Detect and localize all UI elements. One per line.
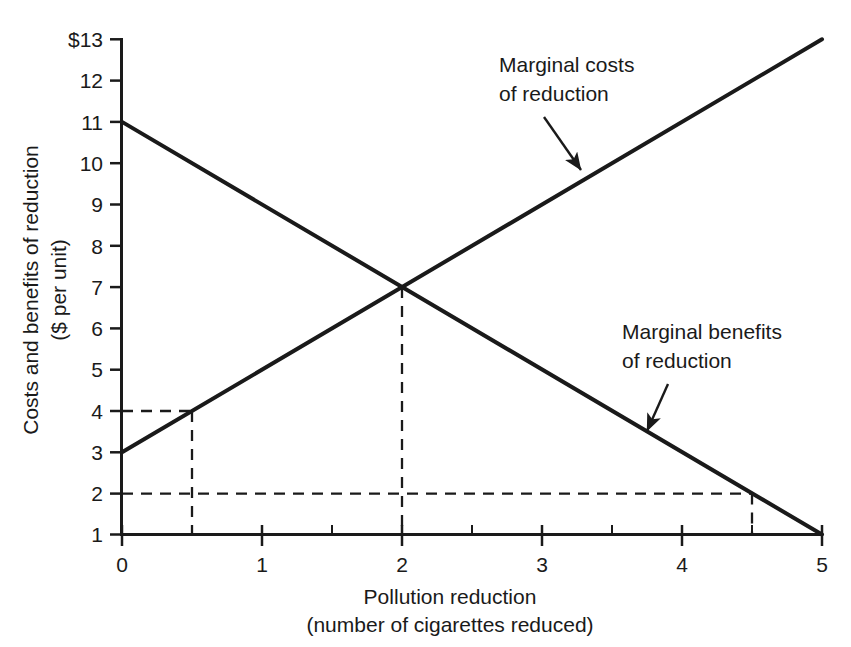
marginal-costs-line	[122, 39, 822, 452]
y-tick-label-9: 9	[91, 193, 103, 216]
x-tick-label-3: 3	[536, 553, 548, 576]
y-tick-label-10: 10	[80, 152, 103, 175]
y-axis-tick-labels: $13 12 11 10 9 8 7 6 5 4 3 2 1	[68, 28, 103, 546]
y-tick-label-6: 6	[91, 317, 103, 340]
y-tick-label-1: 1	[91, 523, 103, 546]
chart-figure: $13 12 11 10 9 8 7 6 5 4 3 2 1	[0, 0, 851, 647]
marginal-costs-arrow	[544, 117, 581, 170]
x-axis-title-group: Pollution reduction (number of cigarette…	[306, 585, 593, 636]
y-axis-title: Costs and benefits of reduction	[19, 145, 42, 435]
marginal-costs-label-line1: Marginal costs	[499, 53, 634, 76]
marginal-benefits-label-line2: of reduction	[622, 349, 732, 372]
y-tick-label-8: 8	[91, 235, 103, 258]
y-axis-title-group: Costs and benefits of reduction ($ per u…	[19, 145, 70, 435]
marginal-benefits-arrow	[647, 384, 668, 431]
y-tick-label-7: 7	[91, 276, 103, 299]
marginal-benefits-label-line1: Marginal benefits	[622, 320, 782, 343]
marginal-benefits-annotation-label: Marginal benefits of reduction	[622, 320, 782, 372]
x-tick-label-2: 2	[396, 553, 408, 576]
economics-line-chart: $13 12 11 10 9 8 7 6 5 4 3 2 1	[0, 0, 851, 647]
y-tick-label-5: 5	[91, 358, 103, 381]
x-tick-label-0: 0	[116, 553, 128, 576]
y-tick-label-11: 11	[81, 111, 103, 134]
y-tick-label-2: 2	[91, 482, 103, 505]
series-marginal-costs	[122, 39, 822, 452]
y-axis-subtitle: ($ per unit)	[47, 239, 70, 341]
x-tick-label-5: 5	[816, 553, 828, 576]
y-tick-label-13: $13	[68, 28, 103, 51]
x-axis-tick-labels: 0 1 2 3 4 5	[116, 553, 828, 576]
x-tick-label-1: 1	[256, 553, 268, 576]
y-axis-ticks	[110, 39, 121, 534]
axes-group	[120, 38, 823, 535]
x-axis-minor-ticks	[192, 525, 752, 534]
marginal-costs-label-line2: of reduction	[499, 82, 609, 105]
y-tick-label-12: 12	[80, 69, 103, 92]
marginal-costs-annotation-label: Marginal costs of reduction	[499, 53, 634, 105]
x-axis-title: Pollution reduction	[364, 585, 537, 608]
y-tick-label-4: 4	[91, 400, 103, 423]
x-axis-subtitle: (number of cigarettes reduced)	[306, 613, 593, 636]
y-tick-label-3: 3	[91, 441, 103, 464]
x-tick-label-4: 4	[676, 553, 688, 576]
